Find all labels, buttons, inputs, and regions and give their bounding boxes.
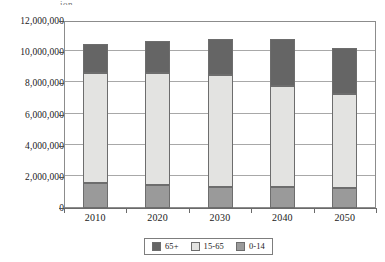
bar-segment-2030-0-14 <box>208 187 233 208</box>
bar-2020 <box>145 21 170 208</box>
bar-segment-2040-0-14 <box>270 187 295 208</box>
y-axis: 02,000,0004,000,0006,000,0008,000,00010,… <box>0 21 64 209</box>
legend-label: 15-65 <box>204 242 224 251</box>
bar-segment-2040-65+ <box>270 39 295 86</box>
legend-swatch-icon <box>236 242 245 251</box>
x-axis-tick <box>64 208 65 213</box>
bar-segment-2020-15-65 <box>145 73 170 185</box>
bar-segment-2010-65+ <box>83 44 108 73</box>
bar-segment-2040-15-65 <box>270 86 295 187</box>
bar-segment-2030-65+ <box>208 39 233 75</box>
legend-item-0-14[interactable]: 0-14 <box>236 242 265 251</box>
legend-swatch-icon <box>152 242 161 251</box>
bars-container <box>64 21 376 208</box>
legend-item-15-65[interactable]: 15-65 <box>191 242 224 251</box>
bar-segment-2050-0-14 <box>332 188 357 208</box>
bar-segment-2050-65+ <box>332 48 357 94</box>
bar-segment-2050-15-65 <box>332 94 357 188</box>
bar-segment-2030-15-65 <box>208 75 233 187</box>
y-axis-tick-label: 2,000,000 <box>2 172 64 182</box>
y-axis-tick-label: 0 <box>2 203 64 213</box>
x-axis-tick <box>189 208 190 213</box>
legend-item-65+[interactable]: 65+ <box>152 242 179 251</box>
x-axis-tick <box>126 208 127 213</box>
bar-segment-2010-15-65 <box>83 73 108 183</box>
bar-segment-2010-0-14 <box>83 183 108 208</box>
bar-2050 <box>332 21 357 208</box>
legend-label: 65+ <box>165 242 179 251</box>
x-axis-label-2010: 2010 <box>65 212 125 224</box>
y-axis-tick-label: 10,000,000 <box>2 47 64 57</box>
x-axis-label-2020: 2020 <box>128 212 188 224</box>
x-axis-label-2040: 2040 <box>252 212 312 224</box>
x-axis-tick <box>314 208 315 213</box>
x-axis-label-2050: 2050 <box>315 212 375 224</box>
population-stacked-bar-chart: ion 02,000,0004,000,0006,000,0008,000,00… <box>0 0 385 262</box>
x-axis-tick <box>251 208 252 213</box>
bar-2030 <box>208 21 233 208</box>
cropped-title-remnant: ion <box>60 0 100 5</box>
x-axis-label-2030: 2030 <box>190 212 250 224</box>
y-axis-tick-label: 8,000,000 <box>2 78 64 88</box>
x-axis-tick <box>376 208 377 213</box>
y-axis-tick-label: 6,000,000 <box>2 110 64 120</box>
legend-label: 0-14 <box>249 242 265 251</box>
bar-2040 <box>270 21 295 208</box>
bar-2010 <box>83 21 108 208</box>
legend-swatch-icon <box>191 242 200 251</box>
chart-legend: 65+15-650-14 <box>144 238 273 255</box>
x-axis-line <box>64 208 376 209</box>
y-axis-tick-label: 4,000,000 <box>2 141 64 151</box>
bar-segment-2020-0-14 <box>145 185 170 208</box>
y-axis-tick-label: 12,000,000 <box>2 16 64 26</box>
bar-segment-2020-65+ <box>145 41 170 73</box>
